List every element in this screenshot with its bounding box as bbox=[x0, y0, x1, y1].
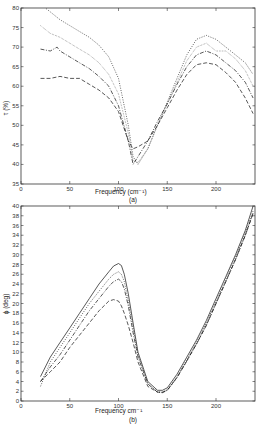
y-tick-label: 75 bbox=[12, 25, 19, 31]
panel-caption-b: (b) bbox=[129, 416, 137, 424]
series-line bbox=[41, 213, 254, 392]
y-tick-label: 22 bbox=[12, 291, 19, 297]
series-line bbox=[41, 4, 254, 164]
y-tick-label: 35 bbox=[12, 181, 19, 187]
y-tick-label: 30 bbox=[12, 252, 19, 258]
y-tick-label: 65 bbox=[12, 64, 19, 70]
y-tick-label: 80 bbox=[12, 5, 19, 11]
y-axis-label-b: ϕ (deg) bbox=[2, 294, 10, 315]
x-tick-label: 150 bbox=[162, 186, 173, 192]
series-line bbox=[41, 213, 254, 392]
y-tick-label: 55 bbox=[12, 103, 19, 109]
x-tick-label: 200 bbox=[211, 186, 222, 192]
y-tick-label: 28 bbox=[12, 262, 19, 268]
series-line bbox=[41, 206, 254, 390]
y-tick-label: 45 bbox=[12, 142, 19, 148]
x-tick-label: 150 bbox=[162, 403, 173, 409]
plot-frame bbox=[21, 206, 255, 401]
series-line bbox=[41, 211, 254, 392]
y-tick-label: 26 bbox=[12, 271, 19, 277]
series-line bbox=[41, 63, 254, 149]
y-tick-label: 40 bbox=[12, 161, 19, 167]
x-axis-label-b: Frequency cm⁻¹ bbox=[95, 407, 143, 415]
figure: 05010015020035404550556065707580 0501001… bbox=[0, 0, 264, 431]
x-axis-label-a: Frequency (cm⁻¹) bbox=[95, 188, 147, 196]
chart-panel-b: 0501001502000246810121416182022242628303… bbox=[12, 203, 255, 409]
y-tick-label: 16 bbox=[12, 320, 19, 326]
x-tick-label: 0 bbox=[19, 403, 23, 409]
x-tick-label: 50 bbox=[66, 403, 73, 409]
y-tick-label: 34 bbox=[12, 232, 19, 238]
y-tick-label: 60 bbox=[12, 83, 19, 89]
y-tick-label: 20 bbox=[12, 301, 19, 307]
x-tick-label: 50 bbox=[66, 186, 73, 192]
y-tick-label: 12 bbox=[12, 340, 19, 346]
plot-frame bbox=[21, 8, 255, 184]
x-tick-label: 200 bbox=[211, 403, 222, 409]
y-tick-label: 18 bbox=[12, 310, 19, 316]
series-line bbox=[41, 47, 254, 164]
y-tick-label: 50 bbox=[12, 122, 19, 128]
y-tick-label: 70 bbox=[12, 44, 19, 50]
x-tick-label: 0 bbox=[19, 186, 23, 192]
panel-caption-a: (a) bbox=[129, 196, 137, 204]
y-tick-label: 2 bbox=[16, 388, 20, 394]
y-axis-label-a: τ (%) bbox=[2, 101, 10, 115]
y-tick-label: 8 bbox=[16, 359, 20, 365]
y-tick-label: 38 bbox=[12, 213, 19, 219]
chart-panel-a: 05010015020035404550556065707580 bbox=[12, 4, 255, 192]
y-tick-label: 32 bbox=[12, 242, 19, 248]
y-tick-label: 24 bbox=[12, 281, 19, 287]
y-tick-label: 6 bbox=[16, 369, 20, 375]
y-tick-label: 40 bbox=[12, 203, 19, 209]
y-tick-label: 14 bbox=[12, 330, 19, 336]
y-tick-label: 36 bbox=[12, 223, 19, 229]
y-tick-label: 10 bbox=[12, 349, 19, 355]
y-tick-label: 4 bbox=[16, 379, 20, 385]
